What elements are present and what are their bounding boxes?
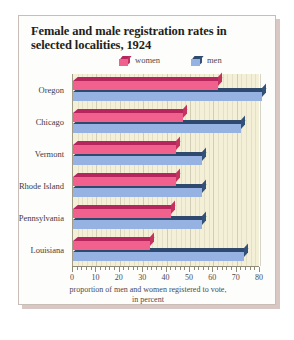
- bar-women-louisiana: [73, 241, 150, 250]
- bar-women-vermont: [73, 145, 176, 154]
- legend-label-women: women: [135, 55, 160, 65]
- x-axis-tick: [194, 267, 195, 270]
- x-axis-tick: [240, 267, 241, 270]
- x-axis-tick: [151, 267, 152, 270]
- x-axis-tick-label: 30: [138, 273, 146, 282]
- y-axis-label-chicago: Chicago: [19, 106, 68, 138]
- x-axis: [72, 266, 259, 273]
- x-axis-tick-label: 10: [91, 273, 99, 282]
- x-axis-tick: [226, 267, 227, 270]
- x-axis-tick: [184, 267, 185, 270]
- x-axis-tick: [147, 267, 148, 270]
- x-axis-tick: [245, 267, 246, 270]
- x-axis-tick: [114, 267, 115, 270]
- x-axis-tick-label: 0: [70, 273, 74, 282]
- x-axis-tick: [105, 267, 106, 270]
- x-axis-tick: [180, 267, 181, 270]
- x-axis-tick: [250, 267, 251, 270]
- x-axis-tick: [161, 267, 162, 270]
- x-axis-tick: [72, 267, 73, 272]
- bar-group: [73, 106, 259, 138]
- x-axis-tick-label: 50: [185, 273, 193, 282]
- x-axis-tick: [170, 267, 171, 270]
- bar-group: [73, 170, 259, 202]
- chart-card: Female and male registration rates in se…: [18, 15, 276, 305]
- x-axis-tick: [198, 267, 199, 270]
- x-axis-tick: [133, 267, 134, 270]
- legend-label-men: men: [207, 55, 222, 65]
- x-axis-tick: [231, 267, 232, 270]
- bar-women-oregon: [73, 81, 218, 90]
- y-axis-label-louisiana: Louisiana: [19, 234, 68, 266]
- x-axis-tick-labels: 01020304050607080: [72, 273, 259, 285]
- x-axis-tick-label: 80: [255, 273, 263, 282]
- x-axis-tick: [81, 267, 82, 270]
- x-axis-tick: [109, 267, 110, 270]
- y-axis-label-oregon: Oregon: [19, 74, 68, 106]
- plot-area: [72, 74, 259, 266]
- x-axis-tick: [259, 267, 260, 272]
- page-title: Female and male registration rates in se…: [31, 25, 265, 52]
- x-axis-tick-label: 40: [162, 273, 170, 282]
- x-axis-tick: [217, 267, 218, 270]
- x-axis-tick: [95, 267, 96, 272]
- x-axis-tick: [254, 267, 255, 270]
- x-axis-tick: [142, 267, 143, 272]
- y-axis-labels: OregonChicagoVermontRhode IslandPennsylv…: [19, 74, 68, 266]
- x-axis-tick: [128, 267, 129, 270]
- caption-line-2: in percent: [39, 295, 257, 305]
- caption-line-1: proportion of men and women registered t…: [39, 285, 257, 295]
- chart-legend: women men: [119, 53, 269, 71]
- x-axis-tick: [222, 267, 223, 270]
- x-axis-tick: [86, 267, 87, 270]
- axis-caption: proportion of men and women registered t…: [39, 285, 257, 305]
- x-axis-tick: [100, 267, 101, 270]
- x-axis-tick: [189, 267, 190, 272]
- y-axis-label-pennsylvania: Pennsylvania: [19, 202, 68, 234]
- x-axis-tick: [137, 267, 138, 270]
- x-axis-tick: [91, 267, 92, 270]
- bar-group: [73, 234, 259, 266]
- bar-men-louisiana: [73, 252, 244, 261]
- y-axis-label-vermont: Vermont: [19, 138, 68, 170]
- x-axis-tick: [166, 267, 167, 272]
- bar-group: [73, 138, 259, 170]
- bar-men-vermont: [73, 156, 202, 165]
- cube-icon-women: [119, 56, 128, 65]
- bar-women-rhode-island: [73, 177, 176, 186]
- bar-men-rhode-island: [73, 188, 202, 197]
- gridline-major: [260, 74, 261, 266]
- chart-page: Female and male registration rates in se…: [0, 0, 294, 340]
- x-axis-tick-label: 70: [232, 273, 240, 282]
- bar-group: [73, 74, 259, 106]
- x-axis-tick: [156, 267, 157, 270]
- x-axis-tick: [203, 267, 204, 270]
- x-axis-tick: [208, 267, 209, 270]
- bar-group: [73, 202, 259, 234]
- x-axis-tick: [119, 267, 120, 272]
- bar-men-pennsylvania: [73, 220, 202, 229]
- x-axis-tick-label: 60: [208, 273, 216, 282]
- x-axis-tick: [77, 267, 78, 270]
- y-axis-label-rhode-island: Rhode Island: [19, 170, 68, 202]
- bar-women-pennsylvania: [73, 209, 171, 218]
- cube-icon-men: [191, 56, 200, 65]
- x-axis-tick: [236, 267, 237, 272]
- x-axis-tick: [175, 267, 176, 270]
- x-axis-tick: [123, 267, 124, 270]
- bar-men-chicago: [73, 124, 241, 133]
- x-axis-tick: [212, 267, 213, 272]
- bar-men-oregon: [73, 92, 262, 101]
- x-axis-tick-label: 20: [115, 273, 123, 282]
- bar-women-chicago: [73, 113, 183, 122]
